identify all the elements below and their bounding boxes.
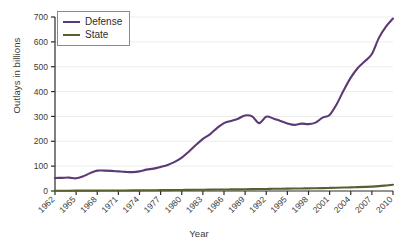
x-tick-label: 1962 xyxy=(36,194,57,215)
y-tick-label: 700 xyxy=(34,12,48,22)
legend-label-state: State xyxy=(85,28,108,41)
chart-legend: Defense State xyxy=(57,11,130,46)
x-axis xyxy=(55,191,393,195)
x-tick-label: 1998 xyxy=(289,194,310,215)
x-tick-label: 1995 xyxy=(268,194,289,215)
x-tick-label: 1983 xyxy=(184,194,205,215)
x-tick-label: 1977 xyxy=(142,194,163,215)
x-tick-label: 1986 xyxy=(205,194,226,215)
legend-swatch-state xyxy=(63,34,80,36)
y-tick-label: 100 xyxy=(34,161,48,171)
x-axis-title: Year xyxy=(0,228,398,239)
legend-swatch-defense xyxy=(63,21,80,23)
y-tick-label: 600 xyxy=(34,37,48,47)
legend-label-defense: Defense xyxy=(85,15,122,28)
y-tick-label: 0 xyxy=(43,186,48,196)
y-tick-label: 300 xyxy=(34,112,48,122)
x-tick-label: 1992 xyxy=(247,194,268,215)
legend-entry-state: State xyxy=(63,28,122,41)
y-axis xyxy=(51,17,55,191)
y-tick-label: 500 xyxy=(34,62,48,72)
y-tick-label: 400 xyxy=(34,87,48,97)
x-tick-label: 1971 xyxy=(99,194,120,215)
x-tick-label: 1974 xyxy=(120,194,141,215)
chart-figure: 0100200300400500600700 19621965196819711… xyxy=(0,0,398,244)
x-tick-labels: 1962196519681971197419771980198319861989… xyxy=(36,194,395,215)
y-tick-label: 200 xyxy=(34,136,48,146)
x-tick-label: 2010 xyxy=(374,194,395,215)
x-tick-label: 2007 xyxy=(353,194,374,215)
legend-entry-defense: Defense xyxy=(63,15,122,28)
x-tick-label: 2004 xyxy=(332,194,353,215)
x-tick-label: 1980 xyxy=(163,194,184,215)
x-tick-label: 1989 xyxy=(226,194,247,215)
y-axis-title: Outlays in billions xyxy=(11,16,22,136)
series-line-state xyxy=(55,185,393,191)
x-tick-label: 1965 xyxy=(57,194,78,215)
x-tick-label: 1968 xyxy=(78,194,99,215)
y-tick-labels: 0100200300400500600700 xyxy=(34,12,48,196)
x-tick-label: 2001 xyxy=(311,194,332,215)
